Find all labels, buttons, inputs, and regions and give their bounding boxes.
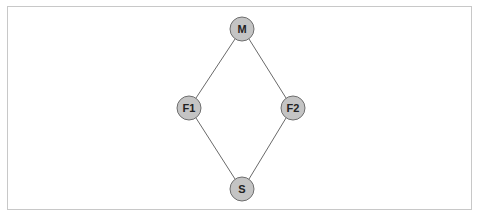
edge-m-f2: [249, 39, 286, 98]
node-s-label: S: [238, 183, 245, 195]
node-m-label: M: [237, 23, 246, 35]
node-f2-label: F2: [287, 102, 300, 114]
edge-f1-s: [196, 118, 235, 179]
edge-f2-s: [249, 118, 286, 179]
node-s: S: [230, 177, 254, 201]
edge-m-f1: [196, 39, 235, 98]
node-f1-label: F1: [183, 102, 196, 114]
node-f2: F2: [281, 96, 305, 120]
edges: [196, 39, 286, 179]
graph-diagram: M F1 F2 S: [0, 0, 478, 221]
node-f1: F1: [177, 96, 201, 120]
node-m: M: [230, 17, 254, 41]
